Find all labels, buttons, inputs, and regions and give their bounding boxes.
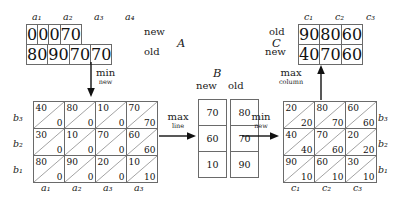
- op-main-text: max: [269, 68, 313, 78]
- table-row: 20 20 80 70 60 60: [284, 102, 377, 129]
- matrix-a-col-label-1: a₂: [63, 11, 72, 22]
- matrix-left-cell-r2c2: 20 0: [96, 156, 127, 183]
- matrix-left-row-label-b3: b₃: [13, 112, 23, 123]
- cell-bottom-value: 0: [119, 117, 125, 129]
- matrix-a-col-label-2: a₃: [94, 11, 103, 22]
- cell-top-value: 90: [286, 156, 297, 168]
- cell-bottom-value: 0: [119, 144, 125, 156]
- matrix-right-cell-r0c2: 60 60: [346, 102, 377, 129]
- matrix-left-cell-r0c0: 40 0: [34, 102, 65, 129]
- matrix-left-cell-r2c1: 90 0: [65, 156, 96, 183]
- matrix-right-col-label-2: c₃: [353, 182, 362, 193]
- matrix-left-cell-r0c1: 80 0: [65, 102, 96, 129]
- matrix-right-cell-r2c2: 30 10: [346, 156, 377, 183]
- matrix-right-row-label-b1: b₁: [378, 164, 388, 175]
- table-row: 30 0 10 0 70 0 60 60: [34, 129, 158, 156]
- cell-top-value: 30: [36, 129, 47, 141]
- matrix-c-col-label-1: c₂: [335, 11, 344, 22]
- matrix-b-column-new: 70 60 10: [198, 99, 227, 178]
- cell-bottom-value: 60: [332, 144, 343, 156]
- matrix-left-col-label-0: a₁: [41, 182, 50, 193]
- matrix-a-cell-new-3: 70: [60, 25, 81, 45]
- matrix-left-col-label-2: a₃: [103, 182, 112, 193]
- matrix-left-cell-r2c3: 10 10: [127, 156, 158, 183]
- matrix-right-col-label-0: c₁: [291, 182, 300, 193]
- matrix-right-cell-r1c1: 70 60: [315, 129, 346, 156]
- matrix-right-cell-r2c1: 60 10: [315, 156, 346, 183]
- arrow-right-max-line: [159, 130, 197, 142]
- matrix-c-cell-old-2: 60: [341, 25, 362, 45]
- cell-top-value: 60: [348, 102, 359, 114]
- table-row: 40 40 70 60 20 20: [284, 129, 377, 156]
- cell-bottom-value: 0: [88, 117, 94, 129]
- cell-top-value: 40: [36, 102, 47, 114]
- cell-bottom-value: 60: [144, 144, 155, 156]
- cell-bottom-value: 10: [363, 171, 374, 183]
- op-sub-text: new: [96, 78, 115, 86]
- matrix-a-col-label-0: a₁: [32, 11, 41, 22]
- matrix-c-cell-new-0: 40: [299, 45, 320, 65]
- matrix-a-cell-new-1: 0: [38, 25, 49, 45]
- matrix-c-col-label-2: c₃: [366, 11, 375, 22]
- cell-bottom-value: 0: [88, 171, 94, 183]
- table-row: 90 10 60 10 30 10: [284, 156, 377, 183]
- op-main-text: min: [96, 68, 115, 78]
- matrix-a-cell-old-0: 80: [27, 45, 48, 65]
- op-label-max-line: max line: [159, 112, 197, 130]
- matrix-a-name: A: [177, 36, 185, 50]
- matrix-right-cell-r1c0: 40 40: [284, 129, 315, 156]
- op-label-min-new-down: min new: [96, 68, 115, 86]
- matrix-left-cell-r1c1: 10 0: [65, 129, 96, 156]
- matrix-a-col-label-3: a₄: [125, 11, 134, 22]
- matrix-right-row-label-b3: b₃: [378, 112, 388, 123]
- cell-top-value: 80: [67, 102, 78, 114]
- matrix-a-row-new: 0 0 0 70: [26, 24, 82, 45]
- cell-bottom-value: 0: [119, 171, 125, 183]
- matrix-a-row-label-new: new: [144, 26, 165, 37]
- matrix-c-name: C: [272, 36, 281, 50]
- cell-top-value: 10: [129, 156, 140, 168]
- matrix-c-row-old: 90 80 60: [298, 24, 363, 45]
- op-label-min-new-right: min new: [241, 112, 281, 130]
- matrix-c-cell-new-2: 60: [341, 45, 362, 65]
- cell-bottom-value: 0: [57, 171, 63, 183]
- cell-top-value: 20: [98, 156, 109, 168]
- cell-top-value: 10: [98, 102, 109, 114]
- op-sub-text: line: [159, 122, 197, 130]
- matrix-b-col-label-new: new: [196, 80, 217, 91]
- cell-top-value: 60: [317, 156, 328, 168]
- cell-bottom-value: 0: [57, 144, 63, 156]
- matrix-a-cell-new-2: 0: [49, 25, 60, 45]
- matrix-left-grid: 40 0 80 0 10 0 70 70 30 0: [33, 101, 158, 183]
- cell-bottom-value: 10: [144, 171, 155, 183]
- matrix-left-col-label-1: a₂: [72, 182, 81, 193]
- arrow-right-min-new: [242, 130, 280, 142]
- matrix-right-cell-r0c0: 20 20: [284, 102, 315, 129]
- matrix-left-cell-r1c0: 30 0: [34, 129, 65, 156]
- matrix-left-cell-r2c0: 80 0: [34, 156, 65, 183]
- matrix-right-col-label-1: c₂: [322, 182, 331, 193]
- matrix-c-row-new: 40 70 60: [298, 44, 363, 65]
- cell-top-value: 70: [98, 129, 109, 141]
- cell-bottom-value: 70: [144, 117, 155, 129]
- matrix-c-cell-old-0: 90: [299, 25, 320, 45]
- matrix-left-cell-r0c3: 70 70: [127, 102, 158, 129]
- matrix-b-cell-new-2: 10: [199, 152, 227, 178]
- matrix-c-cell-old-1: 80: [320, 25, 341, 45]
- cell-top-value: 70: [317, 129, 328, 141]
- matrix-a-row-label-old: old: [144, 46, 160, 57]
- cell-top-value: 20: [286, 102, 297, 114]
- arrow-up-max-column: [314, 64, 328, 100]
- diagram-canvas: a₁ a₂ a₃ a₄ 0 0 0 70 new 80 90 70 70 old…: [0, 0, 399, 205]
- op-label-max-column: max column: [269, 68, 313, 86]
- matrix-b-cell-new-1: 60: [199, 126, 227, 152]
- table-row: 40 0 80 0 10 0 70 70: [34, 102, 158, 129]
- matrix-b-cell-old-2: 90: [231, 152, 259, 178]
- cell-bottom-value: 20: [301, 117, 312, 129]
- op-main-text: min: [241, 112, 281, 122]
- matrix-right-cell-r1c2: 20 20: [346, 129, 377, 156]
- matrix-left-row-label-b2: b₂: [13, 138, 23, 149]
- matrix-b-cell-new-0: 70: [199, 100, 227, 126]
- cell-bottom-value: 0: [88, 144, 94, 156]
- cell-bottom-value: 0: [57, 117, 63, 129]
